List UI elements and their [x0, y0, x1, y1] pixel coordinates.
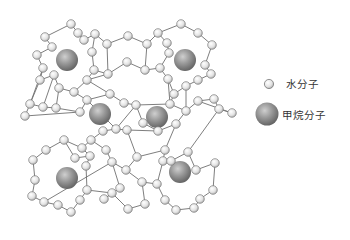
water-molecule	[106, 90, 115, 99]
water-molecule	[54, 201, 63, 210]
water-molecule	[164, 75, 173, 84]
water-molecule	[21, 112, 30, 121]
hydrogen-bond	[43, 75, 54, 107]
water-molecule	[228, 109, 237, 118]
legend-label-methane: 甲烷分子	[282, 107, 326, 122]
water-molecule	[87, 136, 96, 145]
water-molecule	[74, 29, 83, 38]
water-molecule	[124, 32, 133, 41]
water-molecule	[154, 29, 163, 38]
methane-molecule	[56, 167, 78, 189]
water-molecule	[184, 148, 193, 157]
water-molecule	[182, 82, 191, 91]
water-molecule	[42, 146, 51, 155]
water-molecule	[172, 206, 181, 215]
legend-item-water: 水分子	[262, 76, 319, 91]
water-molecule	[167, 157, 176, 166]
water-molecule	[67, 208, 76, 217]
water-molecule	[194, 97, 203, 106]
water-molecule	[112, 125, 121, 134]
water-molecule	[139, 119, 148, 128]
hydrogen-bond	[116, 105, 136, 129]
water-molecule	[124, 205, 133, 214]
methane-molecule	[146, 106, 168, 128]
water-molecule	[29, 156, 38, 165]
water-molecule	[141, 200, 150, 209]
water-molecule	[194, 76, 203, 85]
water-molecule	[39, 103, 48, 112]
legend-label-water: 水分子	[286, 76, 319, 91]
water-molecule	[36, 76, 45, 85]
water-molecule	[120, 99, 129, 108]
water-molecule	[83, 76, 92, 85]
water-molecule	[71, 154, 80, 163]
water-molecule	[165, 49, 174, 58]
water-molecule	[138, 178, 147, 187]
water-molecule	[172, 120, 181, 129]
water-molecule	[143, 40, 152, 49]
hydrogen-bond	[30, 68, 43, 104]
water-molecule	[52, 104, 61, 113]
water-molecule	[80, 36, 89, 45]
water-molecule	[76, 196, 85, 205]
water-molecule	[78, 144, 87, 153]
water-molecule	[28, 192, 37, 201]
water-molecule	[108, 158, 117, 167]
legend-item-methane: 甲烷分子	[254, 101, 326, 127]
water-molecule	[161, 146, 170, 155]
water-molecule	[133, 153, 142, 162]
water-molecule	[177, 20, 186, 29]
water-molecule	[40, 198, 49, 207]
water-molecule	[100, 195, 109, 204]
hydrogen-bond	[188, 109, 219, 152]
hydrogen-bond	[127, 130, 158, 131]
water-molecule	[108, 189, 117, 198]
water-molecule	[207, 70, 216, 79]
hydrogen-bond-network	[25, 24, 232, 212]
water-molecule	[82, 162, 91, 171]
water-molecule	[163, 39, 172, 48]
water-molecule	[33, 51, 42, 60]
water-molecule	[31, 176, 40, 185]
water-molecule	[166, 100, 175, 109]
water-molecule	[154, 127, 163, 136]
water-molecule	[99, 127, 108, 136]
water-molecule	[76, 108, 85, 117]
water-molecule	[215, 105, 224, 114]
water-molecule	[88, 48, 97, 57]
water-molecule	[83, 96, 92, 105]
water-molecule	[39, 64, 48, 73]
water-molecule	[102, 146, 111, 155]
water-molecule	[60, 136, 69, 145]
hydrogen-bond	[25, 112, 80, 116]
methane-molecule	[174, 49, 196, 71]
water-molecule	[141, 66, 150, 75]
water-molecule	[86, 152, 95, 161]
methane-molecule	[89, 103, 111, 125]
water-molecule	[122, 166, 131, 175]
water-molecule	[182, 107, 191, 116]
methane-molecule-icon	[254, 101, 280, 127]
water-molecule	[201, 61, 210, 70]
water-molecule	[103, 40, 112, 49]
water-molecule	[209, 186, 218, 195]
water-molecule	[26, 100, 35, 109]
water-molecule	[196, 195, 205, 204]
water-molecule	[41, 33, 50, 42]
water-molecule	[153, 180, 162, 189]
water-molecule	[67, 20, 76, 29]
water-molecule	[83, 186, 92, 195]
water-molecule	[208, 41, 217, 50]
water-molecule	[170, 90, 179, 99]
water-molecule	[50, 71, 59, 80]
water-molecule	[159, 157, 168, 166]
water-molecule	[123, 126, 132, 135]
water-molecule	[90, 66, 99, 75]
water-molecule	[91, 30, 100, 39]
water-molecule	[123, 58, 132, 67]
water-molecule	[194, 29, 203, 38]
water-molecule	[116, 184, 125, 193]
water-molecules	[21, 20, 237, 217]
methane-molecule	[56, 49, 78, 71]
water-molecule	[192, 166, 201, 175]
